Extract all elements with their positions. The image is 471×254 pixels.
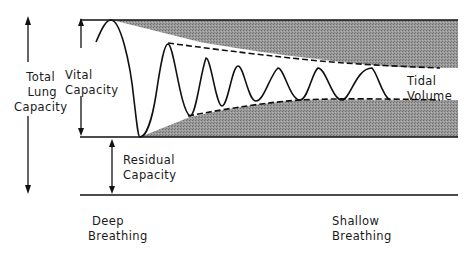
arrowhead-up-icon [25, 16, 31, 25]
label-line: Breathing [332, 229, 392, 244]
label-line: Volume [407, 89, 452, 104]
arrowhead-up-icon [109, 139, 115, 147]
label-line: Total [14, 70, 67, 85]
vital-capacity-label: Vital Capacity [65, 68, 118, 98]
lower-shaded-region [140, 100, 458, 137]
upper-shaded-region [112, 20, 458, 68]
label-line: Lung [14, 85, 67, 100]
shallow-breathing-label: Shallow Breathing [332, 214, 392, 244]
deep-breathing-label: Deep Breathing [88, 214, 148, 244]
tidal-volume-label: Tidal Volume [407, 74, 452, 104]
lung-volume-diagram [0, 0, 471, 254]
label-line: Capacity [14, 100, 67, 115]
arrowhead-down-icon [25, 185, 31, 194]
label-line: Capacity [65, 83, 118, 98]
label-line: Residual [123, 153, 176, 168]
total-lung-capacity-label: Total Lung Capacity [14, 70, 67, 115]
residual-capacity-label: Residual Capacity [123, 153, 176, 183]
label-line: Breathing [88, 229, 148, 244]
label-line: Shallow [332, 214, 392, 229]
label-line: Deep [88, 214, 148, 229]
label-line: Tidal [407, 74, 452, 89]
arrowhead-down-icon [109, 186, 115, 194]
label-line: Vital [65, 68, 118, 83]
arrowhead-down-icon [78, 128, 84, 136]
label-line: Capacity [123, 168, 176, 183]
